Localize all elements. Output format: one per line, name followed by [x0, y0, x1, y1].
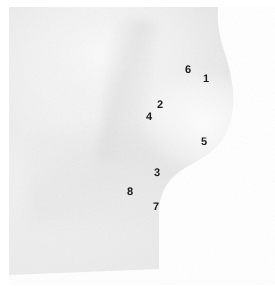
landmark-label-1: 1: [203, 74, 209, 85]
landmark-label-4: 4: [146, 112, 152, 123]
landmark-label-8: 8: [127, 187, 133, 198]
landmark-label-6: 6: [185, 65, 191, 76]
landmark-label-2: 2: [157, 100, 163, 111]
photo-print-area: [9, 7, 275, 285]
landmark-label-5: 5: [201, 137, 207, 148]
landmark-label-7: 7: [153, 202, 159, 213]
jawline-highlight: [126, 68, 259, 185]
landmark-label-3: 3: [154, 168, 160, 179]
figure-root: 6 1 2 4 5 3 8 7: [0, 0, 275, 300]
profile-photograph: [0, 0, 275, 300]
